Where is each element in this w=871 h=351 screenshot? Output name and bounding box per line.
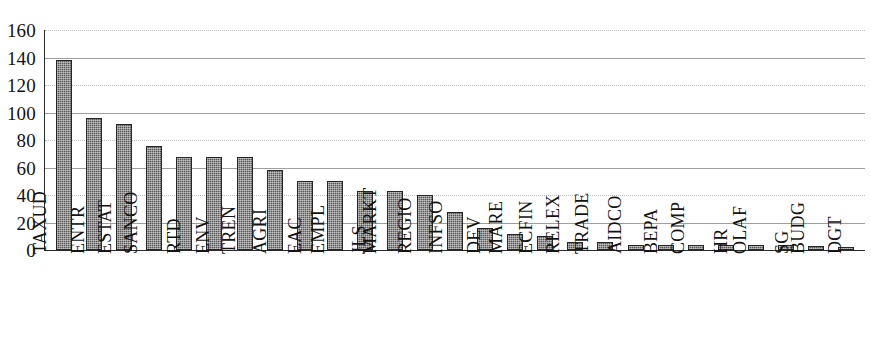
x-tick-slot: MARE [499, 252, 529, 351]
x-tick-slot: BUDG [800, 252, 830, 351]
y-tick-label: 160 [7, 21, 36, 40]
x-tick-slot: ENV [198, 252, 228, 351]
y-tick-label: 80 [17, 131, 36, 150]
x-tick-slot: SANCO [138, 252, 168, 351]
x-tick-slot: TREN [228, 252, 258, 351]
x-tick-label: REGIO [396, 198, 414, 255]
x-axis: TAXUDENTRESTATSANCORTDENVTRENAGRIEACEMPL… [44, 252, 864, 351]
x-tick-label: BEPA [642, 208, 660, 254]
bar-chart: 160140120100806040200 TAXUDENTRESTATSANC… [0, 0, 871, 351]
x-tick-label: MARE [488, 201, 506, 254]
x-tick-slot: COMP [680, 252, 710, 351]
x-tick-label: EMPL [309, 205, 327, 254]
x-tick-label: HR [712, 228, 730, 254]
y-axis: 160140120100806040200 [0, 0, 42, 351]
bar [447, 212, 463, 251]
x-tick-slot: INFSO [439, 252, 469, 351]
x-tick-slot: RTD [168, 252, 198, 351]
x-tick-label: SANCO [122, 191, 140, 254]
x-tick-slot: SG [770, 252, 800, 351]
x-tick-label: RTD [165, 218, 183, 254]
x-tick-slot: REGIO [409, 252, 439, 351]
x-tick-slot: EMPL [319, 252, 349, 351]
x-tick-label: DEV [465, 216, 483, 254]
bar [748, 245, 764, 251]
x-tick-label: DGT [826, 216, 844, 254]
x-tick-slot: DGT [830, 252, 860, 351]
x-tick-slot: BEPA [650, 252, 680, 351]
x-tick-slot: HR [710, 252, 740, 351]
x-tick-slot: OLAF [740, 252, 770, 351]
x-tick-slot: TAXUD [48, 252, 78, 351]
x-tick-slot: ENTR [78, 252, 108, 351]
y-tick-label: 120 [7, 76, 36, 95]
x-tick-label: ESTAT [96, 200, 114, 254]
bar [808, 246, 824, 250]
x-tick-label: TAXUD [32, 191, 50, 254]
x-tick-slot: JLS [349, 252, 379, 351]
x-tick-label: AGRI [251, 209, 269, 254]
x-tick-slot: AIDCO [619, 252, 649, 351]
bar-slot [139, 30, 169, 250]
x-tick-label: BUDG [789, 202, 807, 254]
y-tick-label: 60 [17, 158, 36, 177]
x-tick-slot: ESTAT [108, 252, 138, 351]
x-tick-label: MARKT [361, 187, 379, 254]
bar [146, 146, 162, 251]
x-tick-slot: RELEX [559, 252, 589, 351]
x-tick-slot: MARKT [379, 252, 409, 351]
x-tick-slot: TRADE [589, 252, 619, 351]
x-tick-label: TRADE [574, 193, 592, 255]
x-tick-label: COMP [669, 202, 687, 254]
y-tick-label: 140 [7, 48, 36, 67]
bar [688, 245, 704, 251]
x-tick-slot: AGRI [259, 252, 289, 351]
x-tick-label: ENV [194, 216, 212, 254]
x-tick-slot: ECFIN [529, 252, 559, 351]
x-tick-label: EAC [285, 217, 303, 254]
x-tick-label: RELEX [545, 195, 563, 255]
x-tick-slot: EAC [289, 252, 319, 351]
x-tick-label: TREN [219, 206, 237, 254]
x-tick-slot: DEV [469, 252, 499, 351]
x-tick-label: ENTR [69, 206, 87, 254]
x-tick-label: OLAF [731, 206, 749, 254]
x-tick-label: ECFIN [518, 200, 536, 254]
y-tick-label: 100 [7, 103, 36, 122]
x-tick-label: AIDCO [605, 196, 623, 255]
x-tick-label: INFSO [427, 200, 445, 254]
bar [327, 181, 343, 250]
